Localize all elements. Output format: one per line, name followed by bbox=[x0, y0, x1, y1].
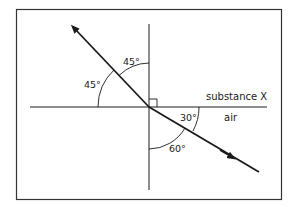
incident-ray-lower bbox=[149, 107, 259, 172]
angle-label-upper-normal: 45° bbox=[123, 56, 140, 67]
arrowhead-icon bbox=[220, 150, 232, 157]
region-label-air: air bbox=[224, 112, 238, 123]
region-label-substance-x: substance X bbox=[206, 91, 267, 102]
right-angle-marker bbox=[149, 99, 157, 107]
refracted-ray-upper bbox=[74, 28, 149, 107]
angle-label-lower-normal: 60° bbox=[169, 143, 186, 154]
angle-label-lower-surface: 30° bbox=[180, 112, 197, 123]
angle-label-upper-surface: 45° bbox=[84, 79, 101, 90]
refraction-diagram: 45° 45° 30° 60° substance X air bbox=[0, 0, 294, 207]
